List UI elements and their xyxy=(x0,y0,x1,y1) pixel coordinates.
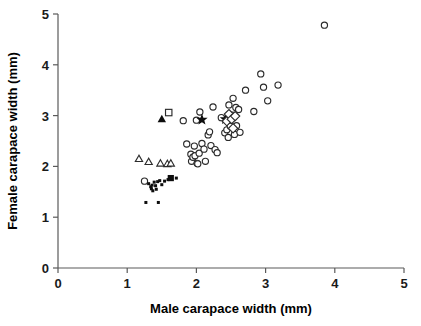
data-point-small-dot xyxy=(157,201,160,204)
data-point-small-dot xyxy=(160,183,163,186)
data-point-small-dot xyxy=(151,189,154,192)
data-point-open-circle xyxy=(214,150,220,156)
x-axis-tick-label: 3 xyxy=(262,276,269,291)
data-point-open-circle xyxy=(202,158,208,164)
data-point-open-circle xyxy=(258,71,264,77)
data-point-open-circle xyxy=(195,161,201,167)
data-point-open-circle xyxy=(242,87,248,93)
y-axis-tick-label: 2 xyxy=(42,159,49,174)
y-axis-tick-label: 3 xyxy=(42,109,49,124)
series-filled-square xyxy=(168,175,174,181)
axes-group: 012345012345 xyxy=(42,7,408,291)
x-axis-tick-label: 1 xyxy=(124,276,131,291)
data-point-open-circle xyxy=(210,104,216,110)
data-point-open-circle xyxy=(206,129,212,135)
y-axis-title: Female carapace width (mm) xyxy=(5,52,20,230)
y-axis-tick-label: 0 xyxy=(42,261,49,276)
data-point-open-circle xyxy=(201,146,207,152)
x-axis-tick-label: 4 xyxy=(331,276,339,291)
data-point-small-dot xyxy=(151,184,154,187)
data-point-small-dot xyxy=(147,182,150,185)
data-point-open-circle xyxy=(265,98,271,104)
data-point-open-circle xyxy=(260,84,266,90)
series-filled-triangle xyxy=(158,115,166,123)
x-axis-title: Male carapace width (mm) xyxy=(150,301,312,316)
data-point-open-triangle xyxy=(157,160,164,166)
data-point-open-triangle xyxy=(145,158,152,164)
x-axis-tick-label: 5 xyxy=(400,276,407,291)
data-point-filled-square xyxy=(168,175,174,181)
data-point-open-circle xyxy=(141,178,147,184)
data-point-open-circle xyxy=(251,108,257,114)
data-point-open-circle xyxy=(236,106,242,112)
data-point-open-square xyxy=(166,109,172,115)
scatter-plot-canvas: 012345012345 Male carapace width (mm) Fe… xyxy=(0,0,421,326)
data-markers-group xyxy=(135,22,327,204)
data-point-small-dot xyxy=(163,180,166,183)
data-point-open-triangle xyxy=(135,155,142,161)
data-point-open-circle xyxy=(275,82,281,88)
y-axis-tick-label: 5 xyxy=(42,7,49,22)
data-point-open-circle xyxy=(321,22,327,28)
series-open-square xyxy=(166,109,172,115)
data-point-small-dot xyxy=(153,181,156,184)
data-point-open-circle xyxy=(184,141,190,147)
series-open-triangle xyxy=(135,155,174,166)
series-open-circle xyxy=(141,22,327,184)
x-axis-tick-label: 2 xyxy=(193,276,200,291)
data-point-open-circle xyxy=(226,102,232,108)
data-point-filled-triangle xyxy=(158,115,166,123)
scatter-plot-figure: 012345012345 Male carapace width (mm) Fe… xyxy=(0,0,421,326)
data-point-open-circle xyxy=(230,95,236,101)
data-point-small-dot xyxy=(154,184,157,187)
data-point-open-circle xyxy=(237,129,243,135)
data-point-small-dot xyxy=(155,188,158,191)
data-point-open-circle xyxy=(225,134,231,140)
data-point-open-circle xyxy=(180,118,186,124)
y-axis-tick-label: 1 xyxy=(42,210,49,225)
y-axis-tick-label: 4 xyxy=(42,58,50,73)
data-point-small-dot xyxy=(158,179,161,182)
data-point-open-circle xyxy=(191,143,197,149)
data-point-small-dot xyxy=(175,177,178,180)
data-point-small-dot xyxy=(144,201,147,204)
x-axis-tick-label: 0 xyxy=(54,276,61,291)
